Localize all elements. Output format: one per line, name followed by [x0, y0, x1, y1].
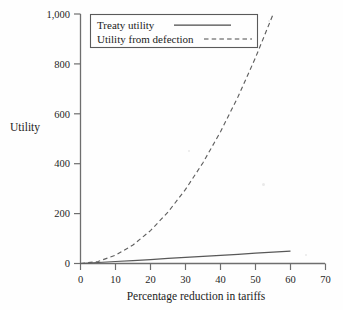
utility-vs-tariff-reduction-chart: 0 200 400 600 800 1,000 0 10 20 30 40 50… [0, 0, 343, 310]
y-tick-label-200: 200 [54, 208, 70, 219]
chart-legend: Treaty utility Utility from defection [91, 15, 258, 48]
y-axis-title: Utility [10, 121, 40, 134]
x-tick-label-0: 0 [78, 274, 83, 285]
x-tick-label-50: 50 [250, 274, 261, 285]
x-tick-label-10: 10 [110, 274, 121, 285]
x-tick-label-60: 60 [285, 274, 296, 285]
x-tick-label-70: 70 [320, 274, 331, 285]
x-tick-label-30: 30 [180, 274, 191, 285]
x-tick-label-40: 40 [215, 274, 226, 285]
x-tick-label-20: 20 [145, 274, 156, 285]
y-tick-label-1000: 1,000 [46, 9, 70, 20]
y-tick-label-800: 800 [54, 59, 70, 70]
chart-figure: 0 200 400 600 800 1,000 0 10 20 30 40 50… [0, 0, 343, 310]
x-axis-title: Percentage reduction in tariffs [127, 290, 266, 303]
y-tick-label-600: 600 [54, 109, 70, 120]
y-tick-label-400: 400 [54, 158, 70, 169]
legend-label-treaty-utility: Treaty utility [97, 19, 155, 31]
legend-label-utility-from-defection: Utility from defection [97, 33, 194, 45]
y-tick-label-0: 0 [65, 258, 70, 269]
